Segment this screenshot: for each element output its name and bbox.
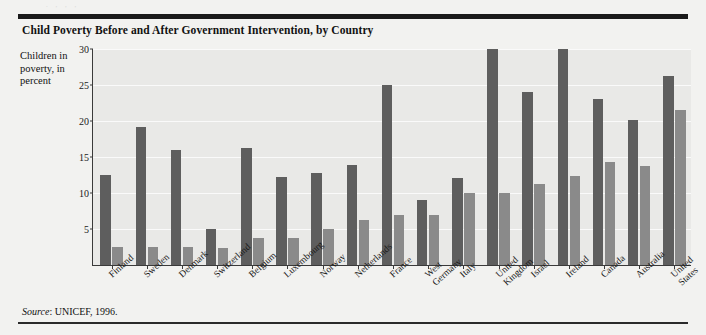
bar-before-taxes[interactable] xyxy=(276,177,287,265)
bar-group xyxy=(382,49,405,265)
bar-group xyxy=(593,49,616,265)
bar-before-taxes[interactable] xyxy=(171,150,182,265)
bar-group xyxy=(276,49,299,265)
y-axis-tick-label: 30 xyxy=(79,44,89,55)
y-axis-tick-label: 15 xyxy=(79,152,89,163)
bar-group xyxy=(487,49,510,265)
bar-group xyxy=(558,49,581,265)
bar-group xyxy=(522,49,545,265)
bar-group xyxy=(136,49,159,265)
bar-group xyxy=(311,49,334,265)
plot-area: 51015202530 xyxy=(92,49,691,266)
bar-before-taxes[interactable] xyxy=(100,175,111,265)
bar-before-taxes[interactable] xyxy=(347,165,358,265)
bar-before-taxes[interactable] xyxy=(382,85,393,265)
bar-group xyxy=(417,49,440,265)
bar-group xyxy=(663,49,686,265)
bar-group xyxy=(452,49,475,265)
bottom-rule-divider xyxy=(18,322,688,324)
bar-before-taxes[interactable] xyxy=(628,120,639,265)
source-label: Source xyxy=(22,306,49,317)
top-rule-divider xyxy=(18,14,688,19)
bar-group xyxy=(241,49,264,265)
y-axis-tick-label: 20 xyxy=(79,116,89,127)
source-note: Source: UNICEF, 1996. xyxy=(22,306,118,317)
bar-before-taxes[interactable] xyxy=(558,49,569,265)
page-artifact-text: . , , , xyxy=(46,1,79,9)
bar-before-taxes[interactable] xyxy=(487,49,498,265)
bar-before-taxes[interactable] xyxy=(417,200,428,265)
bar-before-taxes[interactable] xyxy=(206,229,217,265)
bar-after-taxes[interactable] xyxy=(499,193,510,265)
bar-before-taxes[interactable] xyxy=(522,92,533,265)
bar-after-taxes[interactable] xyxy=(570,176,581,265)
bar-group xyxy=(347,49,370,265)
bar-group xyxy=(171,49,194,265)
chart-title: Child Poverty Before and After Governmen… xyxy=(22,24,373,36)
bar-group xyxy=(628,49,651,265)
bar-after-taxes[interactable] xyxy=(640,166,651,265)
bar-group xyxy=(206,49,229,265)
y-axis-tick-label: 10 xyxy=(79,188,89,199)
bars-layer xyxy=(93,49,691,265)
bar-before-taxes[interactable] xyxy=(663,76,674,265)
bar-group xyxy=(100,49,123,265)
bar-after-taxes[interactable] xyxy=(605,162,616,265)
bar-after-taxes[interactable] xyxy=(675,110,686,265)
bar-before-taxes[interactable] xyxy=(593,99,604,265)
source-value: : UNICEF, 1996. xyxy=(49,306,117,317)
y-axis-tick-label: 5 xyxy=(84,224,89,235)
bar-before-taxes[interactable] xyxy=(136,127,147,265)
figure-container: . , , , Child Poverty Before and After G… xyxy=(0,0,706,335)
y-axis-tick-label: 25 xyxy=(79,80,89,91)
